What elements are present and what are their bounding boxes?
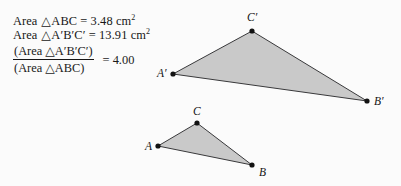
vertex-dot-a-prime	[170, 71, 175, 76]
vertex-dot-c-prime	[249, 28, 254, 33]
triangle-a-prime-b-prime-c-prime	[173, 31, 367, 101]
geometry-figure: Area △ABC = 3.48 cm2 Area △A′B′C′ = 13.9…	[0, 0, 401, 186]
vertex-label-b-prime: B′	[374, 95, 384, 107]
vertex-dot-b-prime	[364, 98, 369, 103]
vertex-label-b: B	[259, 166, 266, 178]
triangle-abc	[158, 123, 252, 165]
vertex-label-a: A	[144, 140, 153, 152]
vertex-label-a-prime: A′	[156, 67, 167, 79]
vertex-label-c-prime: C′	[247, 11, 258, 23]
triangles-canvas: A′ B′ C′ A B C	[0, 0, 401, 186]
vertex-dot-c	[194, 120, 199, 125]
vertex-dot-a	[155, 143, 160, 148]
vertex-label-c: C	[193, 105, 201, 117]
vertex-dot-b	[249, 162, 254, 167]
